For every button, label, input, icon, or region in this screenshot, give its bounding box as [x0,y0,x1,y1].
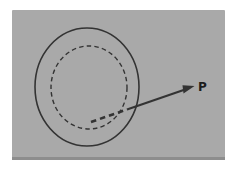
panel-bottom-shadow [12,157,225,160]
figure-canvas: P [0,0,237,173]
circular-motion-diagram: P [0,0,237,173]
point-p-label: P [198,80,207,94]
gray-panel [12,10,225,160]
